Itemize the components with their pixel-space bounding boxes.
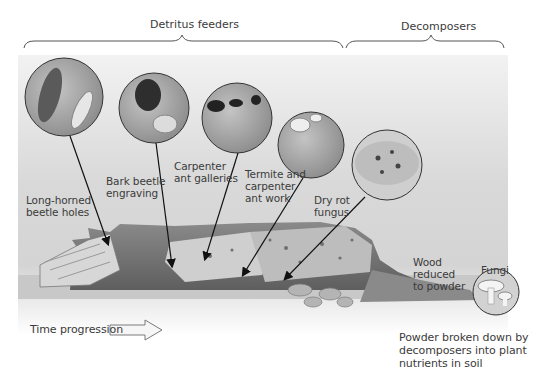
wood-powder-label: Wood reduced to powder: [413, 256, 465, 292]
bark-beetle-circle: [119, 73, 189, 143]
detritus-feeders-heading: Detritus feeders: [150, 18, 239, 31]
fungi-label: Fungi: [481, 264, 509, 276]
bark-beetle-label: Bark beetle engraving: [106, 175, 165, 199]
powder-breakdown-label: Powder broken down by decomposers into p…: [399, 331, 529, 370]
long-horned-beetle-label: Long-horned beetle holes: [26, 194, 91, 218]
long-horned-beetle-circle: [25, 58, 103, 136]
detritus-feeders-brace: [24, 35, 343, 48]
decomposers-heading: Decomposers: [401, 20, 476, 33]
dry-rot-fungus-label: Dry rot fungus: [314, 194, 350, 218]
carpenter-ant-circle: [202, 83, 272, 153]
decomposers-brace: [346, 35, 504, 48]
termite-label: Termite and carpenter ant work: [245, 168, 306, 204]
carpenter-ant-label: Carpenter ant galleries: [174, 160, 238, 184]
dry-rot-fungus-circle: [352, 130, 422, 200]
time-progression-label: Time progression: [30, 324, 123, 336]
decomposition-diagram: Detritus feeders Decomposers Long-horned…: [0, 0, 538, 377]
